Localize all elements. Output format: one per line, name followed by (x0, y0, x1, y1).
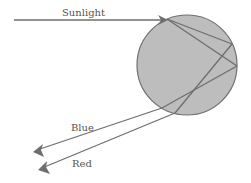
sunlight-label: Sunlight (62, 7, 105, 18)
rainbow-diagram: Sunlight Blue Red (0, 0, 251, 183)
red-arrowhead-icon (38, 161, 50, 174)
blue-label: Blue (71, 122, 94, 133)
red-ray (42, 113, 175, 168)
red-label: Red (72, 158, 92, 169)
water-droplet (137, 15, 237, 115)
blue-arrowhead-icon (33, 144, 44, 157)
